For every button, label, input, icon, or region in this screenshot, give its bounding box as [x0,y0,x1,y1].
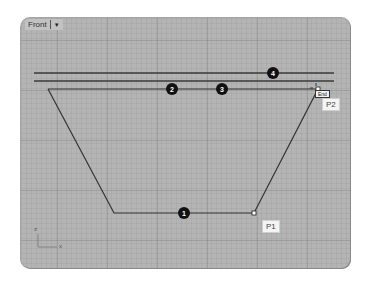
axis-label-x: x [59,243,62,249]
callout-4: 4 [267,67,279,79]
scene-geometry: 1 2 3 4 [0,0,369,285]
svg-text:2: 2 [170,86,174,93]
callout-2: 2 [166,83,178,95]
callout-3: 3 [216,83,228,95]
svg-text:4: 4 [271,70,275,77]
point-marker-p1[interactable] [252,211,256,215]
callout-1: 1 [178,207,190,219]
axis-indicator [38,234,57,247]
svg-text:3: 3 [220,86,224,93]
point-label-p1: P1 [262,220,280,233]
axis-label-z: z [34,226,37,232]
svg-text:1: 1 [182,210,186,217]
trapezoid-polyline[interactable] [48,89,318,213]
point-label-p2: P2 [322,98,340,111]
osnap-tooltip: End [315,90,330,98]
